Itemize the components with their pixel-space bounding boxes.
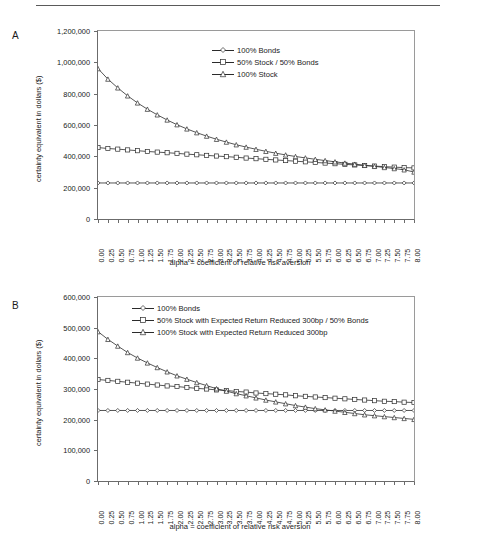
y-tick-label: 600,000: [63, 293, 90, 302]
series-marker: [175, 151, 179, 155]
series-marker: [98, 377, 100, 381]
series-marker: [145, 181, 149, 185]
series-marker: [135, 356, 139, 360]
panel-b: B certainty equivalent in dollars ($) 01…: [0, 288, 480, 545]
x-tick-mark: [266, 220, 267, 223]
series-marker: [185, 181, 189, 185]
series-marker: [214, 137, 218, 141]
series-marker: [392, 399, 396, 403]
x-tick-mark: [276, 220, 277, 223]
panel-b-legend: 100% Bonds50% Stock with Expected Return…: [132, 302, 369, 338]
series-marker: [126, 380, 130, 384]
legend-label: 100% Stock: [237, 70, 278, 79]
series-marker: [293, 394, 297, 398]
series-marker: [294, 408, 298, 412]
x-tick-mark: [177, 220, 178, 223]
series-marker: [126, 408, 130, 412]
series-marker: [224, 408, 228, 412]
series-marker: [254, 181, 258, 185]
series-marker: [284, 158, 288, 162]
series-marker: [323, 181, 327, 185]
series-marker: [382, 408, 386, 412]
series-marker: [363, 181, 367, 185]
y-tick-label: 1,000,000: [57, 58, 90, 67]
x-tick-mark: [167, 220, 168, 223]
y-tick-label: 0: [86, 215, 90, 224]
series-marker: [165, 151, 169, 155]
series-marker: [155, 408, 159, 412]
series-marker: [412, 400, 414, 404]
series-marker: [412, 170, 414, 174]
x-tick-mark: [384, 220, 385, 223]
series-marker: [185, 377, 189, 381]
legend-marker-square-icon: [212, 56, 234, 68]
panel-b-x-axis-title: alpha = coefficient of relative risk ave…: [0, 522, 480, 531]
series-marker: [116, 408, 120, 412]
y-tick-label: 1,200,000: [57, 27, 90, 36]
series-marker: [145, 382, 149, 386]
x-tick-mark: [296, 220, 297, 223]
x-tick-mark: [315, 220, 316, 223]
series-marker: [244, 408, 248, 412]
header-rule: [36, 5, 440, 6]
x-tick-mark: [98, 482, 99, 485]
series-marker: [313, 395, 317, 399]
x-tick-mark: [118, 220, 119, 223]
x-tick-mark: [226, 220, 227, 223]
panel-a-x-axis-title: alpha = coefficient of relative risk ave…: [0, 258, 480, 267]
series-marker: [155, 181, 159, 185]
x-tick-mark: [394, 220, 395, 223]
legend-item: 100% Bonds: [132, 302, 369, 314]
legend-label: 50% Stock / 50% Bonds: [237, 58, 318, 67]
series-marker: [392, 181, 396, 185]
x-tick-mark: [384, 482, 385, 485]
legend-label: 100% Bonds: [157, 304, 200, 313]
series-marker: [116, 147, 120, 151]
x-tick-mark: [147, 220, 148, 223]
series-marker: [106, 181, 110, 185]
x-tick-mark: [197, 482, 198, 485]
series-marker: [165, 118, 169, 122]
x-tick-mark: [286, 482, 287, 485]
x-tick-mark: [256, 220, 257, 223]
y-tick-label: 600,000: [63, 121, 90, 130]
series-marker: [373, 181, 377, 185]
x-tick-mark: [177, 482, 178, 485]
x-tick-mark: [236, 482, 237, 485]
legend-label: 100% Stock with Expected Return Reduced …: [157, 328, 328, 337]
legend-marker-square-icon: [132, 314, 154, 326]
series-marker: [294, 181, 298, 185]
x-tick-mark: [296, 482, 297, 485]
x-tick-mark: [207, 482, 208, 485]
series-marker: [175, 384, 179, 388]
panel-a: A certainty equivalent in dollars ($) 02…: [0, 18, 480, 280]
x-tick-mark: [197, 220, 198, 223]
series-marker: [205, 153, 209, 157]
series-marker: [284, 181, 288, 185]
series-marker: [145, 361, 149, 365]
series-marker: [195, 386, 199, 390]
x-tick-mark: [404, 482, 405, 485]
series-marker: [205, 408, 209, 412]
x-tick-mark: [128, 220, 129, 223]
y-tick-label: 400,000: [63, 354, 90, 363]
x-tick-mark: [266, 482, 267, 485]
x-tick-mark: [167, 482, 168, 485]
x-tick-mark: [355, 220, 356, 223]
x-tick-mark: [118, 482, 119, 485]
series-marker: [392, 408, 396, 412]
series-marker: [215, 181, 219, 185]
x-tick-mark: [345, 220, 346, 223]
series-marker: [412, 181, 414, 185]
y-tick-label: 0: [86, 477, 90, 486]
y-tick-label: 100,000: [63, 446, 90, 455]
series-marker: [333, 181, 337, 185]
legend-item: 50% Stock / 50% Bonds: [212, 56, 318, 68]
series-marker: [274, 408, 278, 412]
series-marker: [313, 181, 317, 185]
series-marker: [195, 181, 199, 185]
x-tick-mark: [236, 220, 237, 223]
x-tick-mark: [335, 482, 336, 485]
series-marker: [363, 398, 367, 402]
series-marker: [165, 408, 169, 412]
